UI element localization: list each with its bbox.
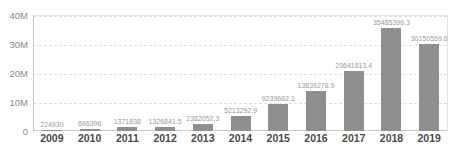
- bar: [419, 44, 439, 131]
- bar-value-label: 696396: [78, 120, 101, 127]
- bar: [231, 116, 251, 131]
- x-axis-label: 2013: [191, 132, 214, 144]
- bar: [80, 129, 100, 131]
- bar-value-label: 30150559.6: [411, 35, 448, 42]
- x-axis-label: 2019: [418, 132, 441, 144]
- bar-group: 30150559.62019: [410, 15, 448, 131]
- bar: [155, 127, 175, 131]
- x-axis-label: 2014: [229, 132, 252, 144]
- bar: [42, 130, 62, 131]
- y-tick-label: 0: [0, 127, 28, 137]
- x-axis-label: 2010: [78, 132, 101, 144]
- bar-value-label: 13639278.9: [298, 82, 335, 89]
- x-axis-label: 2016: [304, 132, 327, 144]
- bars-container: 22493020096963962010137183820111326841.5…: [33, 15, 448, 131]
- bar: [306, 91, 326, 131]
- bar: [381, 28, 401, 131]
- bar-value-label: 5213292.9: [224, 107, 257, 114]
- bar-group: 5213292.92014: [222, 15, 260, 131]
- y-tick-label: 10M: [0, 98, 28, 108]
- bar-group: 9239662.12015: [259, 15, 297, 131]
- bar-group: 2382052.32013: [184, 15, 222, 131]
- bar-group: 13718382011: [108, 15, 146, 131]
- y-tick-label: 40M: [0, 11, 28, 21]
- bar-value-label: 1326841.5: [149, 118, 182, 125]
- bar-value-label: 2382052.3: [186, 115, 219, 122]
- y-tick-label: 30M: [0, 40, 28, 50]
- bar-group: 20641813.42017: [335, 15, 373, 131]
- bar-chart: 40M30M20M10M0 22493020096963962010137183…: [0, 0, 455, 161]
- bar-group: 35485396.32018: [373, 15, 411, 131]
- bar-group: 1326841.52012: [146, 15, 184, 131]
- x-axis-label: 2018: [380, 132, 403, 144]
- bar-value-label: 1371838: [114, 118, 141, 125]
- bar-value-label: 224930: [40, 121, 63, 128]
- x-axis-label: 2015: [267, 132, 290, 144]
- bar-value-label: 20641813.4: [335, 62, 372, 69]
- bar: [344, 71, 364, 131]
- bar: [117, 127, 137, 131]
- bar-value-label: 35485396.3: [373, 19, 410, 26]
- bar-value-label: 9239662.1: [262, 95, 295, 102]
- y-tick-label: 20M: [0, 69, 28, 79]
- bar: [193, 124, 213, 131]
- bar-group: 13639278.92016: [297, 15, 335, 131]
- bar-group: 2249302009: [33, 15, 71, 131]
- x-axis-label: 2009: [40, 132, 63, 144]
- x-axis-label: 2011: [116, 132, 139, 144]
- bar: [268, 104, 288, 131]
- x-axis-label: 2012: [153, 132, 176, 144]
- x-axis-label: 2017: [342, 132, 365, 144]
- bar-group: 6963962010: [71, 15, 109, 131]
